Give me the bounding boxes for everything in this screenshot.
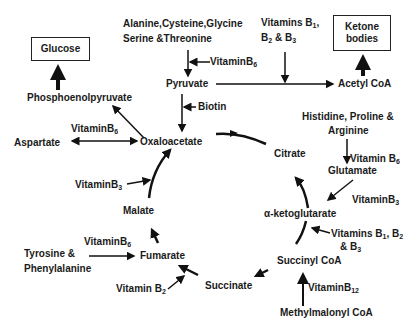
ketone-bodies-box: Ketone bodies	[333, 15, 391, 51]
fumarate-label: Fumarate	[140, 250, 185, 262]
arrow-akg-to-succinylcoa	[296, 221, 306, 244]
ketone-label-1: Ketone	[345, 21, 379, 33]
succinate-label: Succinate	[205, 280, 252, 292]
vitamin-b3-malate-label: VitaminB3	[75, 179, 122, 194]
glucose-label: Glucose	[41, 43, 80, 55]
tyr-phe-label-2: Phenylalanine	[24, 263, 91, 275]
vitamin-b2-label: Vitamin B2	[116, 283, 166, 298]
acetyl-coa-label: Acetyl CoA	[338, 78, 391, 90]
vitamin-b6-pyruvate-label: VitaminB6	[210, 56, 257, 71]
tyr-phe-label-1: Tyrosine &	[24, 248, 75, 260]
malate-label: Malate	[123, 205, 154, 217]
arrow-oaa-to-citrate	[216, 134, 266, 144]
amino-acids-label-1: Alanine,Cysteine,Glycine	[123, 18, 243, 30]
arrow-succinate-to-fumarate	[180, 266, 198, 275]
ketone-label-2: bodies	[346, 33, 378, 45]
arrow-fumarate-to-malate	[152, 230, 158, 243]
phosphoenolpyruvate-label: Phosphoenolpyruvate	[27, 92, 132, 104]
arrow-b2	[168, 276, 184, 289]
pyruvate-label: Pyruvate	[166, 78, 208, 90]
vitamins-b123-akg-label-2: & B3	[340, 241, 361, 256]
vitamin-b3-akg-label: VitaminB3	[352, 194, 399, 209]
amino-acids-label-2: Serine &Threonine	[123, 33, 212, 45]
arrow-b3-to-mdh	[127, 180, 150, 184]
arrow-succinylcoa-to-succinate	[256, 270, 268, 276]
alpha-ketoglutarate-label: α-ketoglutarate	[264, 208, 336, 220]
oxaloacetate-label: Oxaloacetate	[140, 136, 202, 148]
citrate-label: Citrate	[274, 148, 306, 160]
his-pro-arg-label-2: Arginine	[328, 125, 369, 137]
his-pro-arg-label-1: Histidine, Proline &	[302, 111, 394, 123]
aspartate-label: Aspartate	[14, 137, 60, 149]
biotin-label: Biotin	[198, 101, 226, 113]
arrow-b123-to-akgdh	[312, 228, 330, 233]
methylmalonyl-coa-label: Methylmalonyl CoA	[280, 307, 373, 319]
succinyl-coa-label: Succinyl CoA	[277, 255, 341, 267]
vitamin-b12-label: VitaminB12	[308, 282, 359, 297]
glucose-box: Glucose	[31, 37, 90, 61]
vitamin-b6-fumarate-label: VitaminB6	[84, 236, 131, 251]
arrow-malate-to-oaa	[149, 150, 170, 198]
vitamins-b123-pdh-label-1: Vitamins B1,	[261, 17, 319, 32]
arrow-glutamate-to-akg	[328, 180, 353, 200]
vitamins-b123-pdh-label-2: B2 & B3	[261, 32, 296, 47]
arrow-citrate-to-akg	[296, 178, 308, 208]
vitamin-b6-aspartate-label: VitaminB6	[71, 123, 118, 138]
vitamin-b6-glutamate-label: Vitamin B6	[350, 153, 400, 168]
